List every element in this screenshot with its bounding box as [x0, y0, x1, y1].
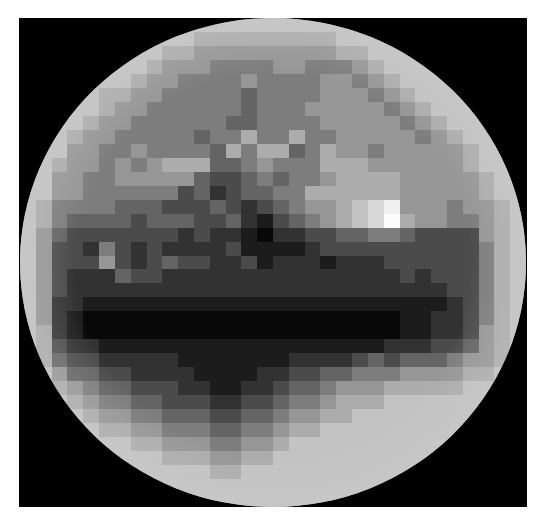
sphere-tile: [99, 325, 115, 339]
sphere-tile: [400, 325, 416, 339]
sphere-tile: [384, 18, 400, 32]
sphere-tile: [305, 74, 321, 88]
sphere-tile: [147, 144, 163, 158]
sphere-tile: [178, 60, 194, 74]
sphere-tile: [447, 74, 463, 88]
sphere-tile: [36, 130, 52, 144]
sphere-tile: [131, 116, 147, 130]
sphere-tile: [510, 381, 526, 395]
sphere-tile: [83, 32, 99, 46]
sphere-tile: [447, 228, 463, 242]
sphere-tile: [67, 32, 83, 46]
sphere-tile: [415, 172, 431, 186]
sphere-tile: [178, 493, 194, 507]
sphere-tile: [463, 88, 479, 102]
sphere-tile: [162, 102, 178, 116]
sphere-tile: [289, 88, 305, 102]
sphere-tile: [226, 102, 242, 116]
sphere-tile: [320, 297, 336, 311]
sphere-tile: [494, 74, 510, 88]
sphere-tile: [431, 283, 447, 297]
sphere-tile: [194, 102, 210, 116]
sphere-tile: [178, 32, 194, 46]
sphere-tile: [83, 395, 99, 409]
sphere-tile: [510, 339, 526, 353]
sphere-tile: [289, 172, 305, 186]
sphere-tile: [131, 102, 147, 116]
sphere-tile: [336, 158, 352, 172]
sphere-tile: [431, 353, 447, 367]
sphere-tile: [226, 353, 242, 367]
sphere-tile: [194, 130, 210, 144]
sphere-tile: [352, 158, 368, 172]
sphere-tile: [510, 186, 526, 200]
sphere-tile: [479, 88, 495, 102]
sphere-tile: [20, 46, 36, 60]
sphere-tile: [415, 242, 431, 256]
sphere-tile: [289, 367, 305, 381]
sphere-tile: [36, 479, 52, 493]
sphere-tile: [147, 18, 163, 32]
sphere-tile: [194, 283, 210, 297]
sphere-tile: [320, 186, 336, 200]
sphere-tile: [99, 479, 115, 493]
sphere-tile: [162, 367, 178, 381]
sphere-tile: [368, 88, 384, 102]
sphere-tile: [115, 381, 131, 395]
sphere-tile: [415, 32, 431, 46]
sphere-tile: [178, 144, 194, 158]
sphere-tile: [336, 423, 352, 437]
sphere-tile: [447, 353, 463, 367]
sphere-tile: [99, 60, 115, 74]
sphere-tile: [115, 437, 131, 451]
sphere-tile: [447, 18, 463, 32]
sphere-tile: [352, 214, 368, 228]
sphere-tile: [99, 269, 115, 283]
sphere-tile: [99, 130, 115, 144]
sphere-tile: [115, 395, 131, 409]
sphere-tile: [510, 46, 526, 60]
sphere-tile: [36, 88, 52, 102]
sphere-tile: [52, 409, 68, 423]
sphere-tile: [384, 283, 400, 297]
sphere-tile: [289, 465, 305, 479]
sphere-tile: [305, 297, 321, 311]
sphere-tile: [178, 423, 194, 437]
sphere-tile: [447, 102, 463, 116]
sphere-tile: [131, 46, 147, 60]
sphere-tile: [431, 395, 447, 409]
sphere-tile: [384, 451, 400, 465]
sphere-tile: [289, 423, 305, 437]
sphere-tile: [273, 172, 289, 186]
sphere-tile: [226, 381, 242, 395]
sphere-tile: [99, 297, 115, 311]
sphere-tile: [131, 437, 147, 451]
sphere-tile: [210, 367, 226, 381]
sphere-tile: [210, 451, 226, 465]
sphere-tile: [131, 144, 147, 158]
sphere-tile: [479, 283, 495, 297]
sphere-tile: [226, 269, 242, 283]
sphere-tile: [162, 214, 178, 228]
sphere-tile: [320, 479, 336, 493]
sphere-tile: [289, 381, 305, 395]
sphere-tile: [273, 409, 289, 423]
sphere-tile: [210, 283, 226, 297]
sphere-tile: [494, 283, 510, 297]
sphere-tile: [83, 325, 99, 339]
sphere-tile: [494, 339, 510, 353]
sphere-tile: [510, 493, 526, 507]
sphere-tile: [273, 311, 289, 325]
sphere-tile: [257, 130, 273, 144]
sphere-tile: [67, 88, 83, 102]
sphere-tile: [131, 297, 147, 311]
sphere-tile: [273, 102, 289, 116]
sphere-tile: [115, 228, 131, 242]
sphere-tile: [400, 88, 416, 102]
sphere-tile: [257, 311, 273, 325]
sphere-tile: [494, 18, 510, 32]
sphere-tile: [131, 283, 147, 297]
sphere-tile: [368, 144, 384, 158]
sphere-tile: [415, 297, 431, 311]
sphere-tile: [368, 423, 384, 437]
